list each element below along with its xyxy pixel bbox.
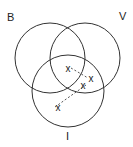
set-label-b: B xyxy=(7,11,14,23)
point-marker: x xyxy=(81,80,86,91)
point-marker: x xyxy=(66,63,71,74)
point-marker: x xyxy=(56,102,61,113)
set-label-i: I xyxy=(66,130,69,142)
set-label-v: V xyxy=(119,10,127,22)
set-labels: B V I xyxy=(7,10,127,142)
set-circles xyxy=(15,23,120,127)
point-marker: x xyxy=(89,73,94,84)
venn-diagram: xxxx B V I xyxy=(0,0,133,147)
